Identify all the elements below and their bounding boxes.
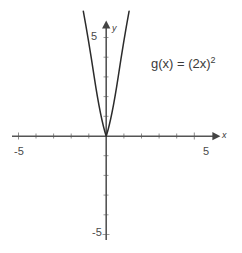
graph-canvas: 5 -5 -5 5 x y g(x) = (2x)2 <box>0 0 242 253</box>
equation-base: g(x) = (2x) <box>151 56 211 71</box>
coordinate-plane-svg <box>0 0 242 253</box>
y-axis-tick-label-neg5: -5 <box>92 227 102 238</box>
y-axis-name-label: y <box>112 24 117 33</box>
x-axis-tick-label-5: 5 <box>203 146 209 157</box>
x-axis-tick-label-neg5: -5 <box>14 146 24 157</box>
equation-exponent: 2 <box>211 55 216 65</box>
x-axis-name-label: x <box>222 131 227 140</box>
function-equation-label: g(x) = (2x)2 <box>151 57 216 70</box>
y-axis-tick-label-5: 5 <box>91 31 97 42</box>
